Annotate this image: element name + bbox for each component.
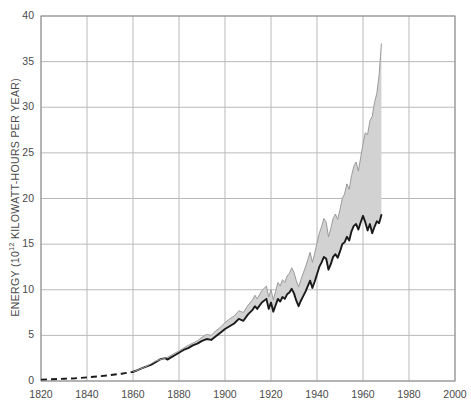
- energy-line-dashed-segment: [41, 370, 138, 380]
- gridlines: [41, 16, 455, 381]
- energy-range-band: [133, 43, 381, 372]
